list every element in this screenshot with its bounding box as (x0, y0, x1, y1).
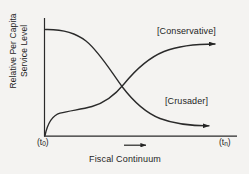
y-axis-title-line2: Service Level (19, 25, 29, 77)
curve-label-conservative: [Conservative] (157, 27, 216, 36)
y-axis-title: Relative Per Capita Service Level (8, 0, 30, 103)
x-tick-start-close: ) (46, 137, 49, 147)
x-axis-title: Fiscal Continuum (63, 155, 187, 164)
x-tick-label-start: (t0) (37, 138, 49, 148)
curve-crusader (45, 44, 215, 136)
curve-label-crusader: [Crusader] (165, 97, 208, 106)
y-axis-title-line1: Relative Per Capita (8, 13, 18, 88)
x-tick-end-close: ) (228, 137, 231, 147)
x-tick-label-end: (tn) (219, 138, 231, 148)
figure-canvas: Relative Per Capita Service Level Fiscal… (0, 0, 249, 174)
